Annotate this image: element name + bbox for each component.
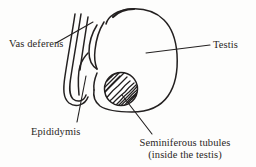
seminiferous-leader-line	[122, 95, 152, 134]
label-epididymis: Epididymis	[31, 126, 80, 138]
label-testis: Testis	[213, 39, 238, 51]
epididymis-duct-outer	[95, 22, 104, 69]
vas-deferens-duct-medial	[64, 14, 88, 105]
anatomy-diagram: Vas deferens Testis Epididymis Seminifer…	[0, 0, 256, 167]
label-seminiferous-line1: Seminiferous tubules	[140, 137, 231, 148]
label-seminiferous-line2: (inside the testis)	[119, 149, 251, 161]
testis-apex-notch	[113, 9, 134, 17]
label-vas-deferens: Vas deferens	[9, 38, 64, 50]
testis-lower-left-edge	[94, 73, 97, 90]
label-seminiferous-tubules: Seminiferous tubules(inside the testis)	[119, 137, 251, 160]
testis-leader-line	[146, 45, 210, 53]
